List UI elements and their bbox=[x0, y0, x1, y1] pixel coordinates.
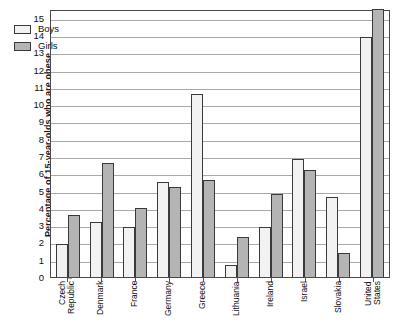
bar-boys bbox=[90, 222, 102, 277]
bar-group bbox=[220, 11, 254, 277]
bar-boys bbox=[123, 227, 135, 277]
bar-groups bbox=[51, 11, 389, 277]
x-axis-tick-cell: Israel bbox=[288, 279, 322, 331]
x-axis-tick-label: France bbox=[130, 281, 139, 331]
bar-girls bbox=[135, 208, 147, 277]
bar-group bbox=[288, 11, 322, 277]
legend-swatch-icon bbox=[14, 42, 31, 51]
bar-girls bbox=[237, 237, 249, 277]
bar-group bbox=[119, 11, 153, 277]
y-axis-tick-label: 7 bbox=[22, 152, 44, 162]
plot-area bbox=[50, 10, 390, 278]
y-axis-tick-label: 6 bbox=[22, 170, 44, 180]
bar-group bbox=[152, 11, 186, 277]
bar-girls bbox=[203, 180, 215, 277]
bar-boys bbox=[360, 37, 372, 277]
chart-legend: BoysGirls bbox=[14, 22, 59, 56]
bar-girls bbox=[102, 163, 114, 277]
bar-boys bbox=[292, 159, 304, 277]
bar-girls bbox=[372, 9, 384, 277]
bar-group bbox=[85, 11, 119, 277]
y-axis-tick-label: 8 bbox=[22, 135, 44, 145]
chart-page: Percentage of 15-year-olds who are obese… bbox=[0, 0, 403, 331]
x-axis-tick-cell: Denmark bbox=[84, 279, 118, 331]
x-axis-tick-cell: Slovakia bbox=[322, 279, 356, 331]
bar-girls bbox=[304, 170, 316, 277]
x-axis-tick-label: Slovakia bbox=[334, 281, 343, 331]
x-axis-tick-cell: United States bbox=[356, 279, 390, 331]
x-axis-tick-cell: France bbox=[118, 279, 152, 331]
x-axis-tick-cell: Czech Republic bbox=[50, 279, 84, 331]
x-axis-tick-label: Denmark bbox=[96, 281, 105, 331]
bar-boys bbox=[191, 94, 203, 277]
legend-item-boys: Boys bbox=[14, 22, 59, 36]
bar-girls bbox=[169, 187, 181, 277]
bar-boys bbox=[259, 227, 271, 277]
bar-group bbox=[355, 11, 389, 277]
y-axis-tick-label: 0 bbox=[22, 273, 44, 283]
bar-boys bbox=[225, 265, 237, 277]
legend-item-girls: Girls bbox=[14, 39, 59, 53]
x-axis-tick-label: United States bbox=[364, 281, 382, 331]
bar-girls bbox=[68, 215, 80, 277]
x-axis-tick-cell: Ireland bbox=[254, 279, 288, 331]
y-axis-tick-label: 3 bbox=[22, 221, 44, 231]
x-axis-tick-cell: Lithuania bbox=[220, 279, 254, 331]
y-axis-tick-label: 9 bbox=[22, 118, 44, 128]
bar-boys bbox=[157, 182, 169, 277]
x-axis-tick-label: Greece bbox=[198, 281, 207, 331]
bar-boys bbox=[56, 244, 68, 277]
legend-label: Boys bbox=[38, 24, 59, 34]
y-axis-tick-label: 10 bbox=[22, 100, 44, 110]
y-axis-tick-label: 2 bbox=[22, 239, 44, 249]
x-axis-tick-label: Germany bbox=[164, 281, 173, 331]
x-axis-tick-cell: Greece bbox=[186, 279, 220, 331]
y-axis-tick-label: 1 bbox=[22, 256, 44, 266]
bar-girls bbox=[338, 253, 350, 277]
y-axis-tick-label: 11 bbox=[22, 83, 44, 93]
legend-label: Girls bbox=[38, 41, 58, 51]
bar-girls bbox=[271, 194, 283, 277]
x-axis-tick-label: Czech Republic bbox=[58, 281, 76, 331]
x-axis-tick-cell: Germany bbox=[152, 279, 186, 331]
x-axis-tick-label: Ireland bbox=[266, 281, 275, 331]
x-axis-tick-label: Lithuania bbox=[232, 281, 241, 331]
bar-group bbox=[186, 11, 220, 277]
y-axis-tick-label: 5 bbox=[22, 187, 44, 197]
bar-group bbox=[254, 11, 288, 277]
x-axis-tick-labels: Czech RepublicDenmarkFranceGermanyGreece… bbox=[50, 279, 390, 331]
bar-group bbox=[321, 11, 355, 277]
x-axis-tick-label: Israel bbox=[300, 281, 309, 331]
legend-swatch-icon bbox=[14, 25, 31, 34]
y-axis-tick-label: 12 bbox=[22, 66, 44, 76]
y-axis-tick-label: 4 bbox=[22, 204, 44, 214]
bar-boys bbox=[326, 197, 338, 277]
